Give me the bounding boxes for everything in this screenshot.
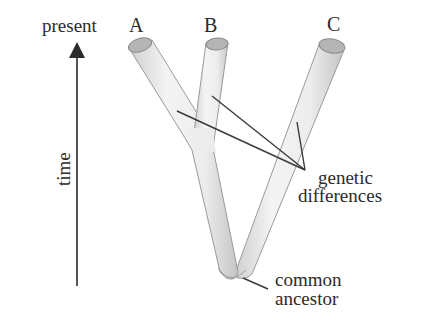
common-ancestor-label-line1: common bbox=[275, 269, 342, 290]
branch-a-label: A bbox=[129, 14, 144, 36]
branch-c-label: C bbox=[327, 13, 340, 35]
tree-trunk bbox=[127, 35, 346, 279]
branch-c bbox=[234, 42, 344, 279]
genetic-differences-label-line2: differences bbox=[298, 185, 382, 206]
time-label: time bbox=[53, 152, 74, 186]
time-axis: present time bbox=[42, 15, 98, 286]
common-ancestor-label-line2: ancestor bbox=[275, 288, 339, 309]
present-label: present bbox=[42, 15, 98, 36]
branch-b-label: B bbox=[204, 14, 217, 36]
common-ancestor-leader bbox=[243, 278, 268, 289]
evolution-tree-diagram: present time A B C genetic differences c… bbox=[0, 0, 429, 336]
